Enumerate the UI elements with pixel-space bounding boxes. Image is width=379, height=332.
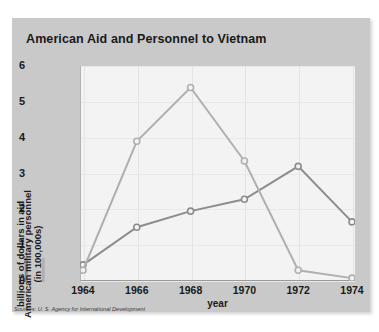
- data-point: [80, 267, 86, 273]
- data-point: [188, 208, 194, 214]
- source-note: Sources: U. S. Agency for International …: [14, 306, 145, 312]
- legend-label-personnel: American military personnel(in 100,000s): [23, 190, 43, 318]
- y-tick-label: 2: [1, 202, 25, 214]
- data-point: [295, 267, 301, 273]
- series-line-1: [83, 88, 352, 279]
- gridline-horizontal: [81, 281, 355, 282]
- data-point: [241, 158, 247, 164]
- data-point: [241, 196, 247, 202]
- data-point: [188, 85, 194, 91]
- x-tick-label: 1966: [115, 284, 159, 296]
- data-point: [349, 275, 355, 281]
- y-tick-label: 5: [1, 95, 25, 107]
- legend-entry-personnel: American military personnel(in 100,000s): [32, 58, 54, 288]
- data-point: [295, 163, 301, 169]
- data-point: [134, 138, 140, 144]
- y-tick-label: 0: [1, 274, 25, 286]
- x-tick-label: 1968: [169, 284, 213, 296]
- y-tick-label: 1: [1, 238, 25, 250]
- x-tick-label: 1974: [330, 284, 374, 296]
- x-tick-label: 1964: [61, 284, 105, 296]
- y-tick-label: 3: [1, 167, 25, 179]
- y-tick-label: 4: [1, 131, 25, 143]
- legend-swatch-personnel: [42, 258, 45, 282]
- x-tick-label: 1970: [222, 284, 266, 296]
- x-tick-label: 1972: [276, 284, 320, 296]
- chart-title: American Aid and Personnel to Vietnam: [26, 32, 267, 46]
- series-line-0: [83, 166, 352, 265]
- chart-card: American Aid and Personnel to Vietnam bi…: [12, 18, 370, 312]
- chart-svg: [80, 66, 355, 281]
- data-point: [349, 219, 355, 225]
- data-point: [134, 224, 140, 230]
- plot-area: [80, 66, 355, 281]
- y-tick-label: 6: [1, 59, 25, 71]
